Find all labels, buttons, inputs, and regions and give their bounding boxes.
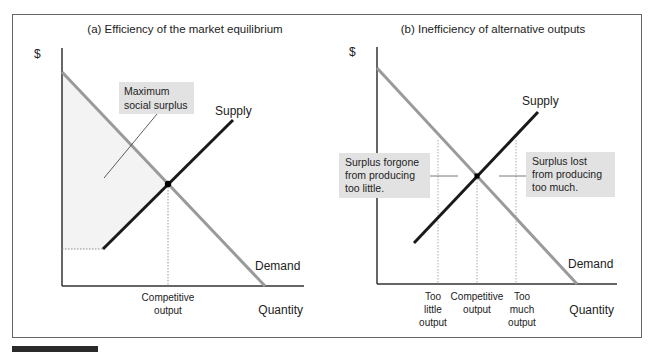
too-little-tick-line1: Too	[425, 291, 442, 302]
panel-a-tick-line2: output	[154, 305, 182, 316]
surplus-forgone-line2: from producing	[345, 169, 415, 181]
panel-b-supply-label: Supply	[522, 94, 559, 108]
panel-a-tick-line1: Competitive	[142, 292, 195, 303]
surplus-lost-line3: too much.	[532, 181, 578, 193]
panel-a-x-label: Quantity	[258, 303, 303, 317]
too-little-tick-line3: output	[419, 317, 447, 328]
surplus-lost-line2: from producing	[532, 168, 602, 180]
panel-a-y-label: $	[34, 47, 41, 61]
panel-b-y-label: $	[349, 45, 356, 59]
too-much-tick-line2: much	[510, 304, 534, 315]
too-much-tick-line3: output	[508, 317, 536, 328]
caption-bar	[12, 346, 98, 352]
too-little-tick-line2: little	[424, 304, 442, 315]
panel-a-equilibrium-point	[165, 181, 171, 187]
max-surplus-line2: social surplus	[124, 99, 188, 111]
panel-b: (b) Inefficiency of alternative outputs …	[339, 23, 617, 328]
panel-b-competitive-tick-line1: Competitive	[451, 291, 504, 302]
panel-a-demand-label: Demand	[255, 259, 300, 273]
panel-b-title: (b) Inefficiency of alternative outputs	[401, 23, 586, 35]
panel-a-title: (a) Efficiency of the market equilibrium	[87, 23, 282, 35]
panel-a-supply-label: Supply	[215, 104, 252, 118]
too-much-tick-line1: Too	[514, 291, 531, 302]
max-surplus-line1: Maximum	[124, 85, 170, 97]
panel-b-equilibrium-point	[475, 174, 480, 179]
surplus-lost-line1: Surplus lost	[532, 155, 587, 167]
panel-b-competitive-tick-line2: output	[463, 304, 491, 315]
panel-a: (a) Efficiency of the market equilibrium…	[34, 23, 304, 317]
surplus-forgone-line1: Surplus forgone	[345, 156, 419, 168]
panel-b-demand-label: Demand	[568, 257, 613, 271]
surplus-forgone-line3: too little.	[345, 182, 384, 194]
figure: (a) Efficiency of the market equilibrium…	[0, 0, 650, 352]
panel-b-x-label: Quantity	[569, 303, 614, 317]
